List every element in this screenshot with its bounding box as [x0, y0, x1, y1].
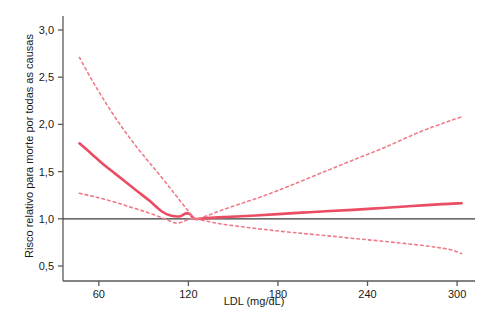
- series-line: [79, 193, 461, 253]
- y-axis-tick-label: 1,0: [39, 213, 54, 225]
- y-axis-tick-label: 2,0: [39, 118, 54, 130]
- x-axis-tick-label: 120: [179, 288, 197, 300]
- chart-figure: Risco relativo para morte por todas as c…: [0, 0, 504, 323]
- x-axis-tick-label: 300: [448, 288, 466, 300]
- y-axis-tick-label: 3,0: [39, 24, 54, 36]
- series-line: [79, 57, 461, 218]
- x-axis-tick-label: 180: [269, 288, 287, 300]
- series-group: [79, 57, 461, 253]
- x-axis-tick-group: 60120180240300: [93, 281, 467, 300]
- y-axis-tick-label: 2,5: [39, 71, 54, 83]
- y-axis-tick-label: 1,5: [39, 166, 54, 178]
- x-axis-tick-label: 240: [358, 288, 376, 300]
- plot-area: 0,51,01,52,02,53,0 60120180240300: [0, 0, 504, 323]
- y-axis-tick-group: 0,51,01,52,02,53,0: [39, 24, 63, 272]
- y-axis-tick-label: 0,5: [39, 260, 54, 272]
- series-line: [79, 143, 461, 219]
- x-axis-tick-label: 60: [93, 288, 105, 300]
